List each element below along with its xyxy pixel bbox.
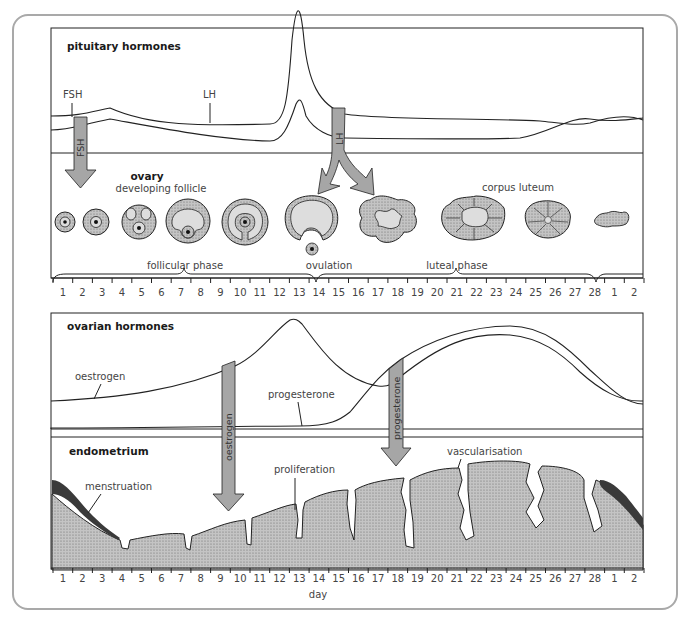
- corpus-luteum-label: corpus luteum: [482, 182, 554, 193]
- day-tick-label: 25: [529, 573, 542, 584]
- day-tick-label: 11: [253, 573, 266, 584]
- oestrogen-arrow: oestrogen: [213, 361, 244, 511]
- fsh-arrow-label: FSH: [75, 139, 86, 157]
- follicle-ovulating: [285, 196, 338, 255]
- day-tick-label: 3: [99, 573, 105, 584]
- day-tick-label: 3: [99, 287, 105, 298]
- day-tick-label: 26: [549, 287, 562, 298]
- x-axis-label: day: [309, 589, 327, 600]
- day-tick-label: 10: [234, 573, 247, 584]
- ovary-title: ovary: [130, 170, 163, 182]
- top-panel: pituitary hormones FSH LH FSH LH ovary d…: [51, 11, 643, 282]
- oestrogen-label: oestrogen: [75, 371, 125, 382]
- progesterone-curve: [51, 326, 643, 429]
- follicle-4: [166, 199, 210, 243]
- day-tick-label: 18: [391, 573, 404, 584]
- top-day-axis: 1234567891011121314151617181920212223242…: [53, 278, 644, 298]
- day-tick-label: 12: [273, 573, 286, 584]
- day-tick-label: 2: [79, 573, 85, 584]
- day-tick-label: 23: [490, 573, 503, 584]
- menstrual-cycle-diagram: pituitary hormones FSH LH FSH LH ovary d…: [0, 0, 692, 626]
- day-tick-label: 21: [450, 287, 463, 298]
- progesterone-label: progesterone: [268, 389, 335, 400]
- corpus-albicans: [595, 211, 629, 226]
- day-tick-label: 4: [119, 573, 125, 584]
- lh-curve-label: LH: [203, 89, 216, 100]
- day-tick-label: 5: [138, 573, 144, 584]
- day-tick-label: 15: [332, 573, 345, 584]
- day-tick-label: 18: [391, 287, 404, 298]
- day-tick-label: 4: [119, 287, 125, 298]
- follicular-phase-label: follicular phase: [147, 260, 223, 271]
- day-tick-label: 7: [178, 287, 184, 298]
- bottom-panel: ovarian hormones oestrogen progesterone …: [51, 313, 643, 570]
- follicle-3: [122, 205, 156, 239]
- day-tick-label: 16: [352, 573, 365, 584]
- fsh-curve-label: FSH: [63, 89, 82, 100]
- day-tick-label: 17: [372, 287, 385, 298]
- day-tick-label: 24: [510, 573, 523, 584]
- fsh-curve: [51, 100, 643, 141]
- day-tick-label: 15: [332, 287, 345, 298]
- day-tick-label: 14: [313, 287, 326, 298]
- day-tick-label: 23: [490, 287, 503, 298]
- day-tick-label: 9: [217, 287, 223, 298]
- day-tick-label: 26: [549, 573, 562, 584]
- follicle-1: [55, 212, 75, 232]
- day-tick-label: 6: [158, 573, 164, 584]
- day-tick-label: 2: [631, 573, 637, 584]
- day-tick-label: 27: [569, 573, 582, 584]
- day-tick-label: 22: [470, 573, 483, 584]
- day-tick-label: 2: [631, 287, 637, 298]
- day-tick-label: 8: [198, 287, 204, 298]
- day-tick-label: 9: [217, 573, 223, 584]
- day-tick-label: 5: [138, 287, 144, 298]
- oestrogen-arrow-label: oestrogen: [223, 413, 234, 461]
- day-tick-label: 2: [79, 287, 85, 298]
- day-tick-label: 14: [313, 573, 326, 584]
- corpus-luteum-2: [442, 196, 505, 240]
- vascularisation-label: vascularisation: [447, 446, 522, 457]
- luteal-phase-label: luteal phase: [426, 260, 487, 271]
- day-tick-label: 20: [431, 573, 444, 584]
- ovary-subtitle: developing follicle: [116, 183, 207, 194]
- day-tick-label: 12: [273, 287, 286, 298]
- corpus-luteum-3: [525, 201, 570, 238]
- day-tick-label: 17: [372, 573, 385, 584]
- ovulation-label: ovulation: [306, 260, 352, 271]
- progesterone-arrow-label: progesterone: [391, 377, 402, 440]
- day-tick-label: 6: [158, 287, 164, 298]
- day-tick-label: 1: [611, 287, 617, 298]
- day-tick-label: 24: [510, 287, 523, 298]
- day-tick-label: 28: [588, 287, 601, 298]
- day-tick-label: 22: [470, 287, 483, 298]
- lh-arrow-label: LH: [334, 133, 345, 145]
- progesterone-arrow: progesterone: [381, 358, 411, 466]
- day-tick-label: 1: [60, 287, 66, 298]
- day-tick-label: 20: [431, 287, 444, 298]
- endometrium-layer: [52, 461, 643, 570]
- day-tick-label: 13: [293, 287, 306, 298]
- day-tick-label: 7: [178, 573, 184, 584]
- day-tick-label: 19: [411, 287, 424, 298]
- day-tick-label: 25: [529, 287, 542, 298]
- day-tick-label: 8: [198, 573, 204, 584]
- follicle-5: [222, 199, 268, 245]
- ovarian-hormones-title: ovarian hormones: [67, 320, 174, 332]
- pituitary-title: pituitary hormones: [67, 40, 181, 52]
- day-tick-label: 1: [60, 573, 66, 584]
- lh-arrow: LH: [318, 108, 374, 195]
- corpus-luteum-1: [360, 196, 417, 242]
- day-tick-label: 10: [234, 287, 247, 298]
- day-tick-label: 21: [450, 573, 463, 584]
- proliferation-label: proliferation: [274, 464, 335, 475]
- endometrium-title: endometrium: [69, 445, 149, 457]
- day-tick-label: 11: [253, 287, 266, 298]
- day-tick-label: 28: [588, 573, 601, 584]
- follicle-2: [83, 209, 109, 235]
- day-tick-label: 1: [611, 573, 617, 584]
- day-tick-label: 13: [293, 573, 306, 584]
- day-tick-label: 16: [352, 287, 365, 298]
- day-tick-label: 19: [411, 573, 424, 584]
- menstruation-label: menstruation: [85, 481, 152, 492]
